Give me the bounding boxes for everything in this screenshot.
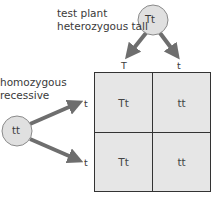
left-parent-genotype: tt [12,124,20,137]
arrow-to-t-top [160,33,175,53]
homozygous-label: homozygous [0,76,67,89]
punnett-square: Tt tt Tt tt [94,72,211,192]
arrow-to-t-upper [30,104,76,124]
gamete-top-T: T [121,59,127,72]
gamete-top-t: t [177,59,181,72]
arrow-to-T [130,33,146,53]
punnett-cell-r1c1: Tt [95,73,153,133]
punnett-cell-r1c2: tt [153,73,210,133]
arrow-to-t-lower [30,139,76,159]
recessive-label: recessive [0,89,49,102]
punnett-cell-r2c2: tt [153,133,210,191]
punnett-cell-r2c1: Tt [95,133,153,191]
heterozygous-tall-label: heterozygous tall [57,20,148,33]
gamete-left-t-lower: t [84,156,88,169]
gamete-left-t-upper: t [84,97,88,110]
test-plant-label: test plant [57,7,107,20]
